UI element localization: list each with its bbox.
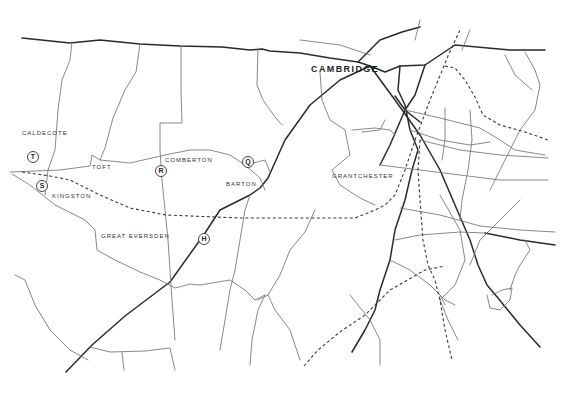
- village-label-barton: BARTON: [226, 181, 257, 187]
- village-label-caldecote: CALDECOTE: [22, 130, 68, 136]
- village-label-kingston: KINGSTON: [52, 193, 91, 199]
- railways: [22, 30, 548, 366]
- city-label-cambridge: CAMBRIDGE: [311, 64, 379, 74]
- marker-t: T: [27, 151, 39, 163]
- marker-h: H: [198, 233, 210, 245]
- village-label-great-eversden: GREAT EVERSDEN: [101, 233, 170, 239]
- village-label-grantchester: GRANTCHESTER: [332, 173, 394, 179]
- marker-s: S: [36, 180, 48, 192]
- village-label-comberton: COMBERTON: [165, 157, 213, 163]
- map-canvas: CAMBRIDGE CALDECOTE TOFT COMBERTON BARTO…: [0, 0, 563, 397]
- marker-r: R: [155, 165, 167, 177]
- minor-roads: [10, 20, 555, 370]
- marker-q: Q: [242, 156, 254, 168]
- major-roads: [22, 27, 555, 372]
- village-label-toft: TOFT: [92, 164, 112, 170]
